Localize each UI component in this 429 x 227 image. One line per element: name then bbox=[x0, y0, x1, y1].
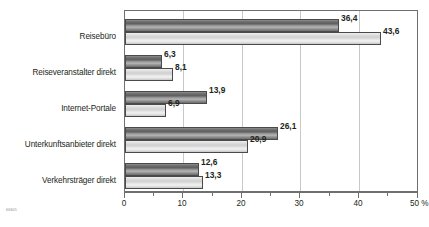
value-label-2010-verkehrstraeger: 12,6 bbox=[201, 158, 217, 167]
bar-2005-internet-portale bbox=[125, 104, 166, 117]
category-label-3: Unterkunftsanbieter direkt bbox=[0, 140, 116, 149]
x-tick-10 bbox=[182, 192, 183, 198]
value-label-2010-reiseburo: 36,4 bbox=[341, 14, 357, 23]
x-axis-label-50: 50 % bbox=[410, 199, 429, 208]
value-label-2005-unterkunftsanbieter: 20,9 bbox=[250, 135, 266, 144]
x-axis-label-20: 20 bbox=[236, 199, 245, 208]
bar-2010-reiseburo bbox=[125, 19, 339, 32]
x-tick-25 bbox=[270, 192, 271, 196]
figure-code: 66605 bbox=[6, 208, 17, 213]
bar-2005-reiseburo bbox=[125, 32, 381, 45]
x-tick-20 bbox=[241, 192, 242, 198]
value-label-2005-internet-portale: 6,9 bbox=[168, 99, 180, 108]
bar-2010-verkehrstraeger bbox=[125, 163, 199, 176]
x-axis-label-10: 10 bbox=[177, 199, 186, 208]
x-tick-30 bbox=[299, 192, 300, 198]
x-tick-0 bbox=[124, 192, 125, 198]
category-label-1: Reiseveranstalter direkt bbox=[0, 68, 116, 77]
bar-chart: Reisebüro Reiseveranstalter direkt Inter… bbox=[0, 0, 429, 227]
bar-2005-unterkunftsanbieter bbox=[125, 140, 248, 153]
x-axis-label-0: 0 bbox=[122, 199, 127, 208]
x-tick-5 bbox=[153, 192, 154, 196]
x-tick-40 bbox=[358, 192, 359, 198]
bar-2010-internet-portale bbox=[125, 91, 207, 104]
value-label-2005-verkehrstraeger: 13,3 bbox=[205, 171, 221, 180]
category-label-0: Reisebüro bbox=[0, 32, 116, 41]
value-label-2005-reiseveranstalter: 8,1 bbox=[175, 63, 187, 72]
value-label-2005-reiseburo: 43,6 bbox=[383, 27, 399, 36]
value-label-2010-reiseveranstalter: 6,3 bbox=[164, 50, 176, 59]
x-tick-15 bbox=[212, 192, 213, 196]
bar-2005-reiseveranstalter bbox=[125, 68, 173, 81]
x-tick-35 bbox=[329, 192, 330, 196]
category-axis-labels: Reisebüro Reiseveranstalter direkt Inter… bbox=[0, 10, 120, 192]
bar-2010-reiseveranstalter bbox=[125, 55, 162, 68]
x-axis-line bbox=[124, 192, 418, 193]
category-label-2: Internet-Portale bbox=[0, 104, 116, 113]
x-axis-label-30: 30 bbox=[294, 199, 303, 208]
x-axis-label-40: 40 bbox=[353, 199, 362, 208]
value-label-2010-unterkunftsanbieter: 26,1 bbox=[280, 122, 296, 131]
x-tick-45 bbox=[387, 192, 388, 196]
bar-2005-verkehrstraeger bbox=[125, 176, 203, 189]
x-tick-50 bbox=[417, 192, 418, 198]
value-label-2010-internet-portale: 13,9 bbox=[209, 86, 225, 95]
category-label-4: Verkehrsträger direkt bbox=[0, 176, 116, 185]
